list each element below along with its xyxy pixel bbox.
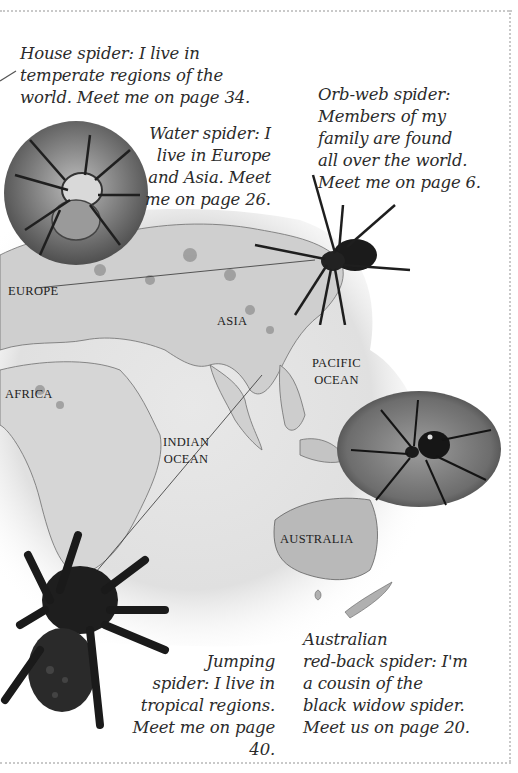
- red-back-spider-photo: [336, 390, 502, 508]
- dotted-border-bottom: [0, 762, 511, 764]
- map-label-indian-ocean: INDIAN OCEAN: [163, 434, 209, 468]
- house-spider-caption: House spider: I live in temperate region…: [20, 43, 250, 109]
- map-label-australia: AUSTRALIA: [280, 531, 354, 548]
- water-spider-photo: [0, 120, 152, 270]
- red-back-spider-caption: Australian red-back spider: I'm a cousin…: [303, 629, 470, 739]
- house-spider-leader-line: [0, 68, 20, 82]
- map-label-asia: ASIA: [217, 313, 247, 330]
- dotted-border-right: [509, 10, 511, 762]
- water-spider-caption: Water spider: I live in Europe and Asia.…: [145, 123, 271, 211]
- orb-web-spider-caption: Orb-web spider: Members of my family are…: [318, 84, 481, 194]
- map-label-africa: AFRICA: [5, 386, 53, 403]
- jumping-spider-caption: Jumping spider: I live in tropical regio…: [120, 651, 275, 761]
- spider-map-page: House spider: I live in temperate region…: [0, 0, 518, 773]
- dotted-border-top: [0, 10, 512, 12]
- map-label-pacific-ocean: PACIFIC OCEAN: [312, 355, 361, 389]
- map-label-europe: EUROPE: [8, 283, 58, 300]
